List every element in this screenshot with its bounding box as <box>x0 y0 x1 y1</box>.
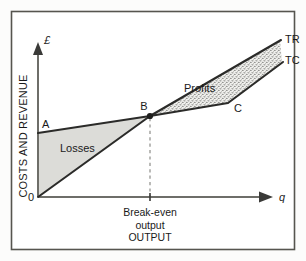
profits-region-label: Profits <box>184 82 216 94</box>
x-axis-variable-label: q <box>279 191 286 203</box>
curve-label-tr: TR <box>285 33 300 45</box>
x-caption-line-2: output <box>135 219 164 231</box>
y-axis-title: COSTS AND REVENUE <box>17 74 29 197</box>
origin-label: 0 <box>28 191 34 203</box>
point-b-marker <box>147 113 153 119</box>
break-even-chart: £ COSTS AND REVENUE 0 q TR TC A B C Loss… <box>0 0 306 261</box>
x-caption-line-1: Break-even <box>123 206 177 218</box>
figure-root: £ COSTS AND REVENUE 0 q TR TC A B C Loss… <box>0 0 306 261</box>
point-label-c: C <box>234 102 242 114</box>
curve-label-tc: TC <box>285 54 300 66</box>
x-caption-line-3: OUTPUT <box>128 231 172 243</box>
point-label-a: A <box>42 118 50 130</box>
y-axis-unit-label: £ <box>43 34 51 46</box>
losses-region-label: Losses <box>60 142 95 154</box>
point-label-b: B <box>140 100 147 112</box>
